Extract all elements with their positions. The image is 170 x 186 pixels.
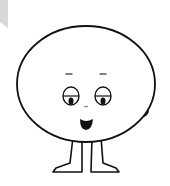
corner-shape: [0, 0, 8, 28]
left-eye-icon: [63, 87, 79, 105]
character-illustration: Cartoon character with a large round hea…: [0, 0, 170, 186]
right-eye-icon: [95, 87, 111, 105]
